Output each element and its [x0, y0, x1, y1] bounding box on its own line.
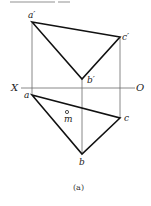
axis-label-x: X	[10, 82, 19, 93]
label-b-prime: b′	[87, 75, 95, 85]
label-a-prime: a′	[28, 10, 35, 20]
label-b: b	[79, 157, 85, 167]
label-c-prime: c′	[122, 32, 129, 42]
figure-caption: (a)	[73, 183, 84, 192]
front-view-triangle	[32, 22, 120, 79]
axis-label-o: O	[136, 82, 144, 93]
label-a: a	[24, 90, 29, 100]
label-m: m	[64, 114, 73, 124]
top-view-triangle	[32, 95, 120, 154]
label-c: c	[124, 113, 129, 123]
projection-diagram: X O a′ b′ c′ a b c m (a)	[0, 0, 151, 206]
